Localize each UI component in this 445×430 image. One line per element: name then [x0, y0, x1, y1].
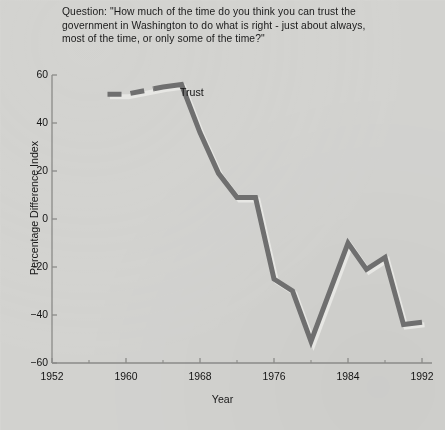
y-tick-label-group: 0: [18, 219, 48, 230]
y-axis-label: Percentage Difference Index: [28, 108, 40, 308]
x-tick-label: 1976: [251, 371, 297, 382]
y-tick-label-group: 20: [18, 171, 48, 182]
trust-line-chart: [0, 0, 445, 430]
y-tick-label-group: −40: [18, 315, 48, 326]
y-tick-label: −20: [18, 261, 48, 272]
series-line-trust: [154, 85, 422, 342]
y-tick-label: 20: [18, 165, 48, 176]
x-tick-label: 1992: [399, 371, 445, 382]
y-tick-label-group: 40: [18, 123, 48, 134]
x-tick-label: 1968: [177, 371, 223, 382]
x-axis-label: Year: [0, 393, 445, 405]
x-tick-label: 1952: [29, 371, 75, 382]
y-tick-label: −60: [18, 357, 48, 368]
y-tick-label-group: −20: [18, 267, 48, 278]
x-tick-label: 1984: [325, 371, 371, 382]
y-tick-label-group: 60: [18, 75, 48, 86]
chart-plot-area: Percentage Difference Index Year Trust 6…: [0, 0, 445, 430]
y-tick-label: −40: [18, 309, 48, 320]
y-tick-label: 40: [18, 117, 48, 128]
series-line-shadow: [110, 87, 425, 344]
y-tick-label: 0: [18, 213, 48, 224]
series-annotation-trust: Trust: [180, 86, 204, 98]
x-tick-label: 1960: [103, 371, 149, 382]
y-tick-label: 60: [18, 69, 48, 80]
